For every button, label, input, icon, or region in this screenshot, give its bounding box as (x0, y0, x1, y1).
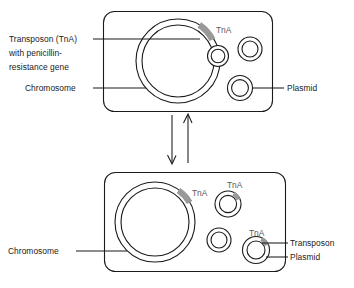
bottom-cell-group (76, 173, 288, 272)
flow-arrows-group (168, 114, 193, 164)
top-chromosome-tna-label: TnA (216, 25, 231, 35)
top-transposon-callout-line1: Transposon (TnA) (9, 34, 77, 45)
top-transposon-callout-line3: resistance gene (9, 62, 69, 73)
bottom-chromosome-tna-label: TnA (192, 188, 207, 198)
bottom-chromosome-label: Chromosome (8, 246, 59, 257)
top-transposon-callout-line2: with penicillin- (9, 48, 62, 59)
bottom-plasmid-3-tna-label: TnA (249, 228, 264, 238)
top-plasmid-label: Plasmid (287, 83, 317, 94)
top-chromosome-label: Chromosome (25, 83, 76, 94)
bottom-transposon-label: Transposon (290, 238, 334, 249)
top-cell-group (93, 12, 284, 112)
transposon-diagram: Transposon (TnA) with penicillin- resist… (0, 0, 354, 288)
bottom-plasmid-1-tna-label: TnA (227, 180, 242, 190)
bottom-plasmid-label: Plasmid (290, 252, 320, 263)
